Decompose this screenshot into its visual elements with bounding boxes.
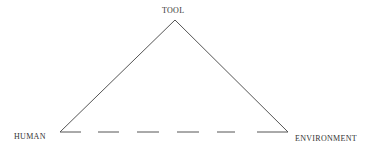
triangle-diagram: TOOL HUMAN ENVIRONMENT — [0, 0, 375, 151]
node-label-environment: ENVIRONMENT — [295, 135, 357, 143]
edge-tool-environment — [175, 20, 288, 132]
node-label-tool: TOOL — [162, 7, 184, 15]
diagram-lines — [0, 0, 375, 151]
edge-human-tool — [60, 20, 175, 132]
node-label-human: HUMAN — [14, 133, 46, 141]
